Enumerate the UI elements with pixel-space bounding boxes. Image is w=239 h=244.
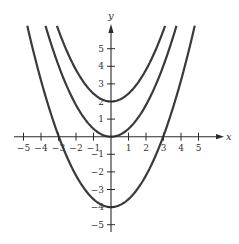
- y-tick-label: 3: [98, 79, 104, 89]
- y-tick-label: 2: [98, 97, 104, 107]
- y-tick-label: 1: [98, 114, 104, 124]
- x-tick-label: 5: [196, 143, 202, 153]
- x-tick-label: −5: [17, 143, 31, 153]
- x-tick-label: −3: [52, 143, 66, 153]
- x-axis-arrow-icon: [216, 134, 224, 139]
- parabola-chart: x y −5−4−3−2−112345−5−4−3−2−112345: [0, 0, 239, 244]
- y-tick-label: −3: [91, 185, 105, 195]
- y-tick-label: −5: [91, 220, 105, 230]
- x-tick-label: 3: [161, 143, 167, 153]
- y-tick-label: 5: [98, 44, 104, 54]
- y-tick-label: −4: [91, 202, 105, 212]
- y-tick-label: 4: [98, 61, 104, 71]
- x-tick-label: 1: [126, 143, 132, 153]
- x-tick-label: −4: [34, 143, 48, 153]
- x-tick-label: 2: [143, 143, 149, 153]
- y-tick-label: −2: [91, 167, 104, 177]
- axes-group: x y: [14, 10, 232, 232]
- y-axis-arrow-icon: [108, 24, 113, 33]
- x-axis-label: x: [226, 131, 232, 142]
- x-tick-label: −2: [69, 143, 82, 153]
- y-axis-label: y: [107, 10, 114, 21]
- x-tick-label: 4: [178, 143, 184, 153]
- y-tick-label: −1: [91, 149, 104, 159]
